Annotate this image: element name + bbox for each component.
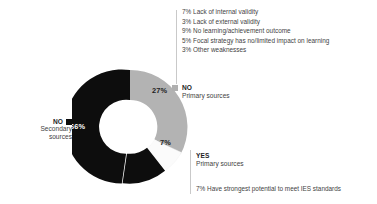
legend-secondary-no-sub-1: Secondary bbox=[6, 125, 72, 133]
legend-primary-no-title-row: NO bbox=[172, 84, 230, 91]
donut-svg bbox=[72, 69, 188, 185]
legend-primary-yes-title: YES bbox=[196, 152, 244, 159]
legend-secondary-no-swatch bbox=[66, 119, 72, 125]
weakness-line-5: 3% Other weaknesses bbox=[182, 45, 377, 55]
legend-primary-no-swatch bbox=[172, 85, 178, 91]
slice-primary-no bbox=[130, 70, 187, 154]
legend-primary-no-sub: Primary sources bbox=[182, 92, 230, 99]
legend-primary-yes-sub: Primary sources bbox=[196, 160, 244, 167]
weakness-line-3: 9% No learning/achievement outcome bbox=[182, 26, 377, 36]
weakness-annotation-list: 7% Lack of internal validity 3% Lack of … bbox=[182, 7, 377, 55]
leader-line-yes-vertical bbox=[190, 150, 191, 194]
legend-primary-no: NO Primary sources bbox=[172, 84, 230, 99]
weakness-line-4: 5% Focal strategy has no/limited impact … bbox=[182, 36, 377, 46]
slice-value-27: 27% bbox=[152, 86, 167, 95]
legend-primary-no-title: NO bbox=[182, 84, 192, 91]
chart-canvas: 7% Lack of internal validity 3% Lack of … bbox=[0, 0, 377, 204]
legend-primary-yes: YES Primary sources bbox=[196, 152, 244, 167]
weakness-line-1: 7% Lack of internal validity bbox=[182, 7, 377, 17]
yes-strength-note: 7% Have strongest potential to meet IES … bbox=[196, 185, 341, 192]
slice-value-66: 66% bbox=[70, 122, 85, 131]
legend-secondary-no: NO Secondary sources bbox=[6, 118, 72, 142]
legend-secondary-no-sub-2: sources bbox=[6, 133, 72, 141]
slice-value-7: 7% bbox=[160, 138, 171, 147]
weakness-line-2: 3% Lack of external validity bbox=[182, 17, 377, 27]
donut-chart bbox=[72, 69, 188, 185]
legend-secondary-no-title-row: NO bbox=[6, 118, 72, 125]
legend-secondary-no-title: NO bbox=[53, 118, 63, 125]
